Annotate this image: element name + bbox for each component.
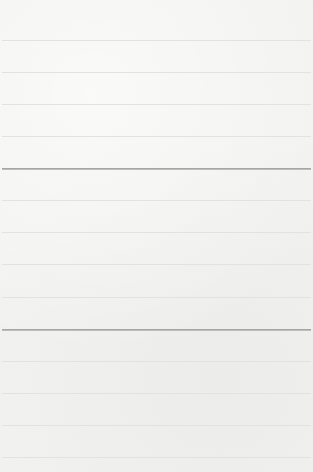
rule-line xyxy=(2,40,311,41)
rule-line xyxy=(2,361,311,362)
rule-line xyxy=(2,393,311,394)
rule-line xyxy=(2,104,311,105)
rule-line xyxy=(2,264,311,265)
rule-line xyxy=(2,425,311,426)
rule-line xyxy=(2,200,311,201)
rule-line xyxy=(2,457,311,458)
lined-paper xyxy=(0,0,313,472)
rule-line xyxy=(2,232,311,233)
rule-line xyxy=(2,297,311,298)
dark-rule-line xyxy=(2,168,311,170)
dark-rule-line xyxy=(2,329,311,331)
rule-line xyxy=(2,72,311,73)
rule-line xyxy=(2,136,311,137)
